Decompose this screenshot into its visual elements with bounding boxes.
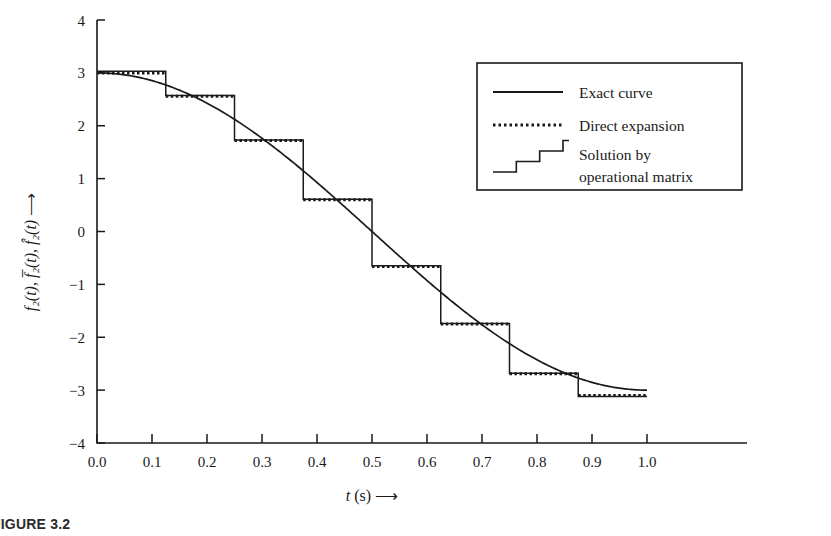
y-tick-label: 1 [78,171,86,187]
figure-container: 43210−1−2−3−40.00.10.20.30.40.50.60.70.8… [0,0,831,536]
x-tick-label: 0.1 [143,454,162,470]
y-tick-label: 0 [78,224,86,240]
x-tick-label: 0.3 [253,454,272,470]
y-axis-title: f₂(t), f̅₂(t), f̂₂(t) ⟶ [21,193,40,311]
chart-plot: 43210−1−2−3−40.00.10.20.30.40.50.60.70.8… [0,0,831,512]
y-tick-label: −3 [69,383,85,399]
y-tick-label: −4 [69,436,85,452]
y-tick-label: 2 [78,118,86,134]
x-tick-label: 0.9 [583,454,602,470]
x-tick-label: 0.2 [198,454,217,470]
y-tick-label: 4 [78,13,86,29]
x-axis-title: t (s) ⟶ [346,487,398,505]
y-tick-label: −1 [69,277,85,293]
legend-label-direct-expansion: Direct expansion [579,117,685,134]
legend-label-operational-matrix-line1: Solution by [579,146,651,163]
x-tick-label: 1.0 [638,454,657,470]
figure-caption: FIGURE 3.2 [0,516,70,532]
x-tick-label: 0.5 [363,454,382,470]
y-tick-label: −2 [69,330,85,346]
x-tick-label: 0.6 [418,454,437,470]
x-tick-label: 0.8 [528,454,547,470]
x-tick-label: 0.7 [473,454,492,470]
x-tick-label: 0.0 [88,454,107,470]
x-tick-label: 0.4 [308,454,327,470]
y-tick-label: 3 [78,65,86,81]
legend-label-exact-curve: Exact curve [579,84,653,101]
legend-label-operational-matrix-line2: operational matrix [579,168,693,185]
